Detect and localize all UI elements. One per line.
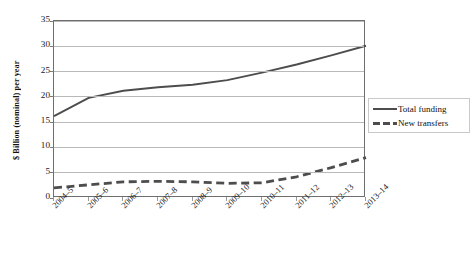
- gridline: [54, 96, 364, 97]
- y-tick-mark: [50, 96, 54, 97]
- x-tick-mark: [261, 197, 262, 201]
- gridline: [54, 71, 364, 72]
- y-tick-label: 15: [30, 116, 50, 125]
- x-axis-tick-marks: [53, 197, 365, 202]
- chart-legend: Total funding New transfers: [368, 98, 470, 133]
- y-tick-mark: [50, 147, 54, 148]
- dashed-line-swatch: [372, 118, 398, 128]
- y-tick-mark: [50, 172, 54, 173]
- gridline: [54, 21, 364, 22]
- gridline: [54, 147, 364, 148]
- gridline: [54, 122, 364, 123]
- y-axis-tick-labels: 05101520253035: [26, 0, 50, 255]
- y-tick-mark: [50, 21, 54, 22]
- y-tick-label: 30: [30, 40, 50, 49]
- x-tick-mark: [53, 197, 54, 201]
- gridline: [54, 46, 364, 47]
- x-tick-mark: [122, 197, 123, 201]
- legend-item-total-funding[interactable]: Total funding: [372, 102, 467, 116]
- x-tick-mark: [330, 197, 331, 201]
- x-tick-mark: [157, 197, 158, 201]
- solid-line-swatch: [372, 104, 398, 114]
- y-axis-title: $ Billion (nominal) per year: [8, 20, 24, 200]
- y-tick-label: 10: [30, 141, 50, 150]
- y-tick-label: 35: [30, 15, 50, 24]
- x-tick-mark: [192, 197, 193, 201]
- x-tick-label: 2013–14: [362, 182, 390, 210]
- plot-area: [53, 20, 365, 197]
- legend-label: Total funding: [398, 105, 447, 114]
- legend-item-new-transfers[interactable]: New transfers: [372, 116, 467, 130]
- series-line-total-funding: [54, 46, 366, 116]
- y-tick-mark: [50, 71, 54, 72]
- chart-figure: $ Billion (nominal) per year 05101520253…: [0, 0, 475, 255]
- legend-label: New transfers: [398, 119, 448, 128]
- y-tick-label: 25: [30, 66, 50, 75]
- x-tick-mark: [296, 197, 297, 201]
- x-tick-mark: [365, 197, 366, 201]
- x-tick-mark: [226, 197, 227, 201]
- y-tick-mark: [50, 46, 54, 47]
- y-tick-label: 20: [30, 91, 50, 100]
- gridline: [54, 172, 364, 173]
- y-tick-label: 5: [30, 167, 50, 176]
- x-tick-mark: [88, 197, 89, 201]
- y-tick-label: 0: [30, 192, 50, 201]
- y-tick-mark: [50, 122, 54, 123]
